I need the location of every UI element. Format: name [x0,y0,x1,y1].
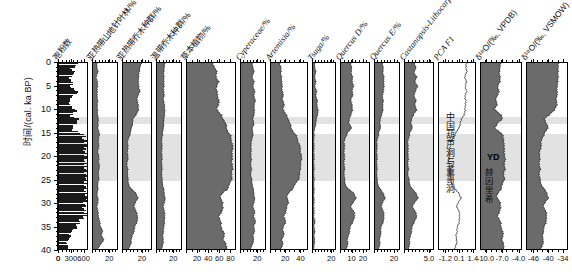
x-tick-minor-top [485,60,486,62]
x-tick-minor-top [462,60,463,62]
panel-subtropical-montane-conifer[interactable]: 亚热带山地针叶林/%20 [92,62,118,250]
panel-plotbox [312,62,336,250]
x-tick-minor-top [427,60,428,62]
curve-subtropical-arbor [123,63,151,249]
x-tick-minor-top [263,60,264,62]
x-tick-minor [260,250,261,252]
x-tick-minor-top [253,60,254,62]
x-tick-minor-top [537,60,538,62]
panel-cyperaceae[interactable]: Cyperaceae/%20 [240,62,266,250]
x-tick-minor [430,250,431,252]
panel-quercus-d[interactable]: Quercus D/%1020 [340,62,370,250]
panel-tsuga[interactable]: Tsuga/%20 [312,62,336,250]
x-tick-minor [99,250,100,252]
x-tick-minor-top [256,60,257,62]
x-tick-minor-top [84,60,85,62]
x-tick-minor [348,250,349,252]
x-tick-label: -34 [558,254,569,263]
x-tick-minor [377,250,378,252]
curve-herbs [187,63,235,249]
x-tick-minor-top [531,60,532,62]
x-tick-label: 20 [253,254,261,263]
pollen-count-sticks [59,63,87,249]
x-tick-minor-top [141,60,142,62]
x-tick-minor [199,250,200,252]
x-tick-minor-top [423,60,424,62]
x-tick-minor [542,250,543,252]
y-tick-label: 30 [27,199,51,207]
x-tick-minor-top [448,60,449,62]
x-tick-minor-top [169,60,170,62]
x-tick-top [300,59,301,62]
panel-herbs[interactable]: 草本植物/%20406080 [186,62,236,250]
x-tick-label: 300 [65,254,78,263]
curve-cyperaceae [241,63,265,249]
x-tick-minor [294,250,295,252]
x-tick [173,250,174,253]
panel-d18o-vsmow[interactable]: δ¹⁸O/(‰, VSMOW)-46-40-34 [526,62,568,250]
x-tick-minor [333,250,334,252]
x-tick-minor-top [108,60,109,62]
x-tick-minor-top [501,60,502,62]
x-tick-minor-top [412,60,413,62]
panel-temperate-arbor[interactable]: 温带乔木种群/%20 [156,62,182,250]
x-tick-top [502,59,503,62]
curve-fill [341,63,357,249]
x-tick-label: 20 [193,254,201,263]
x-tick-minor [95,250,96,252]
x-tick-minor [205,250,206,252]
x-tick-minor [315,250,316,252]
x-tick-minor-top [275,60,276,62]
x-tick-minor-top [179,60,180,62]
curve-subtropical-montane-conifer [93,63,117,249]
x-tick-minor [166,250,167,252]
x-tick-label: 600 [77,254,90,263]
x-tick-minor-top [250,60,251,62]
panel-header-tsuga: Tsuga/% [306,33,331,62]
x-tick-top [219,59,220,62]
x-tick-minor-top [137,60,138,62]
curve-fill [123,63,142,249]
x-tick-minor-top [351,60,352,62]
x-tick-minor-top [542,60,543,62]
curve-fill [271,63,302,249]
x-tick [186,250,187,253]
x-tick-minor [130,250,131,252]
x-tick-minor-top [381,60,382,62]
panel-plotbox [92,62,118,250]
x-tick-minor-top [315,60,316,62]
x-tick-minor-top [115,60,116,62]
x-tick-minor-top [62,60,63,62]
x-tick-minor-top [430,60,431,62]
x-tick-minor [224,250,225,252]
x-tick-minor-top [284,60,285,62]
x-tick-minor-top [163,60,164,62]
x-tick-minor [415,250,416,252]
x-tick [473,250,474,253]
x-tick-minor [363,250,364,252]
x-tick-top [473,59,474,62]
y-tick-label: 25 [27,176,51,184]
x-tick-minor-top [363,60,364,62]
x-tick [340,250,341,253]
x-tick-minor [126,250,127,252]
x-tick-minor-top [112,60,113,62]
x-tick [548,250,549,253]
x-tick-minor [408,250,409,252]
x-tick-minor [163,250,164,252]
panel-castanopsis-lithocarpus[interactable]: Castanopsis-Lithocarpus/%5.0 [404,62,434,250]
x-tick-label: 80 [226,254,234,263]
x-tick-minor-top [211,60,212,62]
x-tick-top [173,59,174,62]
cave-record-annotation: 中国葫芦洞与董哥洞 [444,112,457,193]
x-tick-minor-top [199,60,200,62]
panel-artemisia[interactable]: Artemisia/%2040 [270,62,308,250]
x-tick-minor-top [377,60,378,62]
panel-subtropical-arbor[interactable]: 亚热带乔木种群/%20 [122,62,152,250]
panel-pollen-count[interactable]: 孢粉数03006000 [58,62,88,250]
x-tick-minor-top [318,60,319,62]
panel-quercus-e[interactable]: Quercus E/%20 [374,62,400,250]
x-tick-label: 20 [138,254,146,263]
x-tick [109,250,110,253]
